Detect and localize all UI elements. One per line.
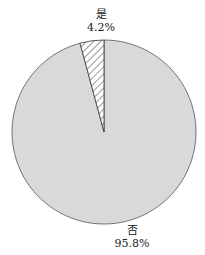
- slice-label-no: 否 95.8%: [112, 224, 152, 250]
- slice-label-no-name: 否: [112, 224, 152, 237]
- slice-label-yes-percent: 4.2%: [86, 21, 116, 34]
- slice-label-no-percent: 95.8%: [112, 237, 152, 250]
- slice-label-yes-name: 是: [86, 8, 116, 21]
- pie-chart-graphic: [0, 0, 205, 255]
- slice-label-yes: 是 4.2%: [86, 8, 116, 34]
- pie-chart: 是 4.2% 否 95.8%: [0, 0, 205, 255]
